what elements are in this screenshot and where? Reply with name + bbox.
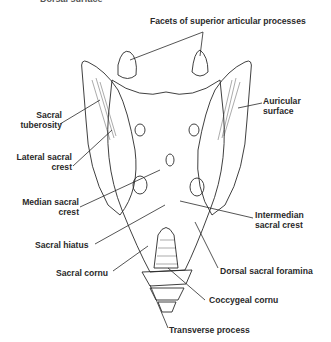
- sacral-hiatus: [154, 228, 178, 269]
- label-line: Auricular: [263, 96, 301, 106]
- label-sacral-hiatus: Sacral hiatus: [35, 240, 89, 250]
- left-articular-process: [118, 51, 136, 78]
- label-coccygeal-cornu: Coccygeal cornu: [209, 295, 278, 305]
- label-auricular-surface: Auricular surface: [263, 96, 301, 116]
- label-line: tuberosity: [12, 120, 62, 130]
- label-lateral-sacral-crest: Lateral sacral crest: [2, 152, 72, 172]
- left-ala: [82, 61, 136, 215]
- label-line: sacral crest: [255, 220, 304, 230]
- label-facets-superior-articular-processes: Facets of superior articular processes: [150, 16, 306, 26]
- label-line: Median sacral: [5, 197, 79, 207]
- label-dorsal-sacral-foramina: Dorsal sacral foramina: [220, 266, 313, 276]
- label-transverse-process: Transverse process: [169, 325, 250, 335]
- label-median-sacral-crest: Median sacral crest: [5, 197, 79, 217]
- label-intermedian-sacral-crest: Intermedian sacral crest: [255, 210, 304, 230]
- label-line: surface: [263, 106, 301, 116]
- coccyx: [142, 270, 192, 312]
- label-line: crest: [2, 162, 72, 172]
- label-line: crest: [5, 207, 79, 217]
- label-sacral-tuberosity: Sacral tuberosity: [12, 110, 62, 130]
- label-line: Sacral: [12, 110, 62, 120]
- label-sacral-cornu: Sacral cornu: [56, 268, 108, 278]
- label-line: Lateral sacral: [2, 152, 72, 162]
- label-line: Intermedian: [255, 210, 304, 220]
